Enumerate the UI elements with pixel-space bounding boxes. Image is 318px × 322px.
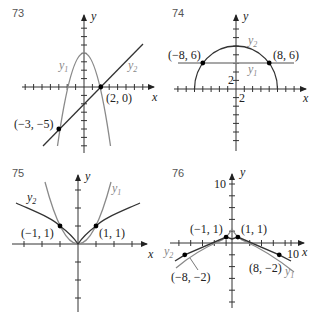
intersection-point xyxy=(56,127,61,132)
x-tick-label: 10 xyxy=(287,247,299,261)
y1-label: y1 xyxy=(247,62,257,78)
point-label: (1, 1) xyxy=(241,222,267,236)
point-label: (−8, 6) xyxy=(168,48,201,62)
point-label: (2, 0) xyxy=(106,91,132,105)
y1-label: y1 xyxy=(111,181,121,197)
y-axis-label: y xyxy=(242,9,249,23)
graph-75: 75 x y y1 y2 (−1, 1) (1, 1) xyxy=(12,167,154,312)
x-axis-label: x xyxy=(147,247,154,261)
x-axis-label: x xyxy=(151,90,158,104)
graph-number: 73 xyxy=(12,7,24,19)
x-axis-label: x xyxy=(301,245,308,259)
point-label: (−8, −2) xyxy=(171,270,211,284)
leader-line xyxy=(190,258,198,270)
point-label: (8, −2) xyxy=(249,261,282,275)
graph-number: 76 xyxy=(172,167,184,179)
y2-label: y2 xyxy=(127,58,137,74)
y1-label: y1 xyxy=(58,58,68,74)
intersection-point xyxy=(267,61,272,66)
graph-number: 74 xyxy=(172,7,184,19)
y-axis-label: y xyxy=(84,169,91,183)
intersection-point xyxy=(200,61,205,66)
x-axis-label: x xyxy=(302,91,309,105)
intersection-point xyxy=(58,224,63,229)
intersection-point xyxy=(182,252,187,257)
y2-label: y2 xyxy=(247,33,257,49)
intersection-point xyxy=(236,235,241,240)
y1-label: y1 xyxy=(284,264,294,280)
y-axis-label: y xyxy=(239,165,246,179)
point-label: (−3, −5) xyxy=(14,117,54,131)
point-label: (1, 1) xyxy=(99,226,125,240)
graph-76: 76 x y 10 10 y1 y2 (−1, 1) (1, 1) (−8, −… xyxy=(163,165,308,308)
figure-panel: 73 x y y1 y2 (2, 0) (−3, −5) 74 x y 2 2 xyxy=(0,0,318,322)
y-tick-label: 10 xyxy=(214,177,226,191)
y-axis-label: y xyxy=(90,9,97,23)
intersection-point xyxy=(277,252,282,257)
graph-number: 75 xyxy=(12,167,24,179)
y-tick-label: 2 xyxy=(228,73,234,87)
point-label: (8, 6) xyxy=(273,48,299,62)
x-tick-label: 2 xyxy=(239,91,245,105)
intersection-point xyxy=(224,235,229,240)
graph-74: 74 x y 2 2 y2 y1 (−8, 6) (8, 6) xyxy=(168,7,309,151)
graph-73: 73 x y y1 y2 (2, 0) (−3, −5) xyxy=(12,7,158,153)
y2-label: y2 xyxy=(26,190,36,206)
point-label: (−1, 1) xyxy=(21,226,54,240)
intersection-point xyxy=(98,85,103,90)
point-label: (−1, 1) xyxy=(190,222,223,236)
intersection-point xyxy=(94,224,99,229)
y2-label: y2 xyxy=(163,244,173,260)
